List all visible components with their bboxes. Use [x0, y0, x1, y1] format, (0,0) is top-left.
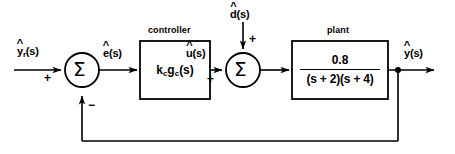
controller-transfer-arg: (s) [179, 63, 194, 77]
summer-1-minus-sign: − [88, 99, 95, 111]
controller-transfer: g [167, 63, 174, 77]
error-signal-label: ^e(s) [103, 48, 122, 59]
controller-expression: kcgc(s) [140, 64, 210, 78]
summer-2-symbol: Σ [234, 59, 247, 79]
reference-signal-label: ^yr(s) [17, 46, 39, 59]
block-diagram: Σ Σ ^yr(s) ^e(s) ^u(s) ^d(s) ^y(s) + − +… [0, 0, 455, 154]
plant-numerator: 0.8 [292, 54, 388, 66]
fraction-bar [300, 69, 380, 71]
plant-block-label: plant [327, 26, 349, 35]
control-signal-label: ^u(s) [186, 48, 205, 59]
branch-node [395, 67, 401, 73]
summer-1-symbol: Σ [73, 59, 86, 79]
plant-denominator: (s + 2)(s + 4) [292, 73, 388, 85]
summer-2-plus-sign-disturbance: + [249, 33, 256, 45]
controller-block-label: controller [148, 26, 191, 35]
output-signal-label: ^y(s) [404, 48, 423, 59]
plant-transfer-function: 0.8 (s + 2)(s + 4) [292, 54, 388, 85]
disturbance-signal-label: ^d(s) [230, 9, 249, 20]
controller-gain: k [156, 63, 163, 77]
summer-1-plus-sign: + [44, 72, 51, 84]
